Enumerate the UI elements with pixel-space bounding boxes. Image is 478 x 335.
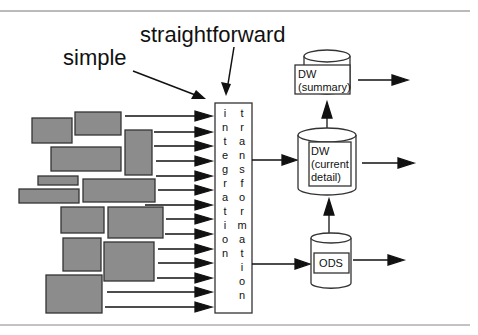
svg-text:t: t	[240, 107, 243, 119]
svg-text:a: a	[239, 233, 246, 245]
ods-out-arrow	[353, 255, 404, 265]
svg-text:g: g	[222, 163, 228, 175]
source-box	[61, 207, 104, 233]
dw-current-detail-store: DW (current detail)	[298, 128, 356, 195]
dw-current-label-3: detail)	[311, 171, 341, 183]
svg-text:n: n	[222, 121, 228, 133]
svg-text:m: m	[237, 219, 246, 231]
straightforward-pointer-arrow	[221, 47, 234, 96]
svg-text:t: t	[240, 247, 243, 259]
integration-transformation-box	[215, 103, 252, 313]
svg-text:n: n	[222, 247, 228, 259]
svg-text:a: a	[239, 135, 246, 147]
ods-label: ODS	[319, 257, 343, 269]
source-box	[32, 118, 72, 143]
svg-text:o: o	[239, 191, 245, 203]
ods-to-current-arrow	[324, 199, 334, 233]
source-systems	[19, 112, 163, 313]
svg-text:i: i	[224, 107, 226, 119]
source-box	[104, 242, 154, 281]
source-box	[46, 275, 102, 313]
label-straightforward: straightforward	[140, 22, 286, 47]
source-box	[51, 147, 121, 171]
ods-store: ODS	[311, 233, 351, 288]
svg-text:e: e	[222, 149, 228, 161]
svg-text:t: t	[223, 135, 226, 147]
svg-text:r: r	[223, 177, 227, 189]
simple-pointer-arrow	[133, 71, 206, 99]
svg-text:o: o	[239, 275, 245, 287]
dw-current-label-1: DW	[311, 145, 330, 157]
source-box	[63, 238, 101, 271]
source-box	[19, 189, 79, 203]
svg-text:s: s	[239, 163, 245, 175]
source-box	[83, 179, 155, 202]
source-box	[108, 207, 163, 238]
svg-text:r: r	[240, 205, 244, 217]
dw-summary-label-1: DW	[298, 68, 317, 80]
dw-summary-out-arrow	[358, 75, 408, 85]
svg-text:n: n	[239, 149, 245, 161]
dw-summary-store: DW (summary)	[295, 50, 351, 94]
source-box	[125, 130, 152, 175]
svg-text:o: o	[222, 233, 228, 245]
svg-text:a: a	[222, 191, 229, 203]
diagram-canvas: straightforward simple	[0, 0, 478, 335]
svg-text:i: i	[224, 219, 226, 231]
svg-text:r: r	[240, 121, 244, 133]
dw-current-label-2: (current	[311, 158, 349, 170]
current-to-summary-arrow	[322, 102, 332, 130]
source-box	[75, 112, 121, 135]
label-simple: simple	[63, 45, 127, 70]
dw-current-out-arrow	[362, 158, 414, 168]
source-box	[38, 176, 78, 185]
svg-text:n: n	[239, 289, 245, 301]
svg-text:i: i	[241, 261, 243, 273]
dw-summary-label-2: (summary)	[298, 81, 351, 93]
svg-text:t: t	[223, 205, 226, 217]
